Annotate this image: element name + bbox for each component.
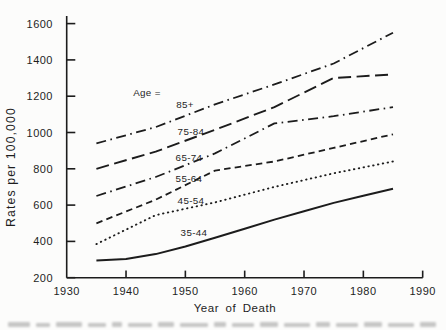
y-tick-label-200: 200 bbox=[33, 272, 53, 284]
series-label-65-74: 65-74 bbox=[176, 152, 203, 163]
y-axis-title: Rates per 100,000 bbox=[4, 107, 18, 227]
series-label-35-44: 35-44 bbox=[181, 227, 208, 238]
y-tick-label-600: 600 bbox=[33, 199, 53, 211]
series-line-55-64 bbox=[96, 134, 393, 223]
y-tick-label-1600: 1600 bbox=[27, 18, 53, 30]
y-tick-label-1400: 1400 bbox=[27, 54, 53, 66]
x-tick-label-1940: 1940 bbox=[113, 285, 139, 297]
y-tick-label-400: 400 bbox=[33, 235, 53, 247]
series-label-55-64: 55-64 bbox=[176, 173, 203, 184]
series-label-45-54: 45-54 bbox=[178, 195, 205, 206]
x-tick-label-1960: 1960 bbox=[231, 285, 257, 297]
series-label-85+: 85+ bbox=[176, 99, 194, 110]
y-tick-label-1000: 1000 bbox=[27, 127, 53, 139]
chart-series bbox=[96, 33, 393, 261]
series-line-65-74 bbox=[96, 107, 393, 196]
cropped-caption-fragment bbox=[8, 322, 436, 327]
series-line-labels: 85+75-8465-7455-6445-5435-44 bbox=[176, 99, 208, 238]
x-axis-ticks: 1930194019501960197019801990 bbox=[53, 271, 435, 297]
mortality-rate-line-chart: 2004006008001000120014001600 19301940195… bbox=[0, 0, 446, 330]
x-tick-label-1930: 1930 bbox=[53, 285, 79, 297]
plot-axes bbox=[67, 16, 423, 278]
x-tick-label-1970: 1970 bbox=[291, 285, 317, 297]
x-tick-label-1990: 1990 bbox=[409, 285, 435, 297]
y-axis-ticks: 2004006008001000120014001600 bbox=[27, 18, 76, 284]
x-axis-title: Year of Death bbox=[194, 302, 277, 314]
series-line-35-44 bbox=[96, 189, 393, 261]
y-tick-label-800: 800 bbox=[33, 163, 53, 175]
scanned-figure: 2004006008001000120014001600 19301940195… bbox=[0, 0, 446, 330]
series-label-75-84: 75-84 bbox=[178, 126, 205, 137]
x-tick-label-1950: 1950 bbox=[172, 285, 198, 297]
x-tick-label-1980: 1980 bbox=[350, 285, 376, 297]
age-legend-label: Age = bbox=[133, 87, 161, 98]
series-line-45-54 bbox=[96, 162, 393, 245]
y-tick-label-1200: 1200 bbox=[27, 90, 53, 102]
